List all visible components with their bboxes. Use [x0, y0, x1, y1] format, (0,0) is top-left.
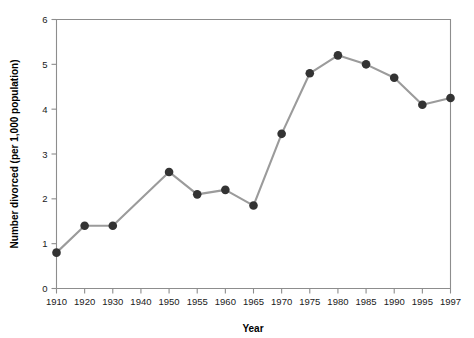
x-axis-tick-label: 1997	[440, 296, 461, 307]
x-axis-tick-label: 1970	[271, 296, 292, 307]
data-point-marker	[52, 248, 61, 257]
y-axis-ticks	[52, 20, 57, 289]
x-axis-tick-label: 1920	[74, 296, 95, 307]
data-point-marker	[390, 73, 399, 82]
x-axis-tick-label: 1990	[384, 296, 405, 307]
y-axis-tick-label: 5	[42, 59, 47, 70]
y-axis-tick-label: 4	[42, 104, 47, 115]
x-axis-tick-label: 1950	[159, 296, 180, 307]
y-axis-tick-label: 1	[42, 238, 47, 249]
data-point-marker	[108, 221, 117, 230]
x-axis-tick-labels: 1910192019301940195019551960196519701975…	[46, 296, 461, 307]
x-axis-tick-label: 1965	[243, 296, 264, 307]
data-point-marker	[446, 94, 455, 103]
divorce-rate-line-chart: 0123456 19101920193019401950195519601965…	[0, 0, 474, 338]
data-point-marker	[305, 69, 314, 78]
y-axis-tick-label: 6	[42, 14, 47, 25]
data-point-marker	[80, 221, 89, 230]
y-axis-label: Number divorced (per 1,000 population)	[9, 60, 20, 249]
x-axis-ticks	[57, 289, 451, 294]
x-axis-tick-label: 1930	[102, 296, 123, 307]
data-point-marker	[165, 168, 174, 177]
data-point-marker	[193, 190, 202, 199]
x-axis-tick-label: 1960	[215, 296, 236, 307]
data-point-marker	[418, 100, 427, 109]
y-axis-tick-label: 2	[42, 193, 47, 204]
x-axis-tick-label: 1985	[356, 296, 377, 307]
y-axis-tick-label: 3	[42, 149, 47, 160]
data-series-group	[52, 51, 455, 257]
x-axis-tick-label: 1955	[187, 296, 208, 307]
x-axis-tick-label: 1975	[299, 296, 320, 307]
x-axis-tick-label: 1995	[412, 296, 433, 307]
data-point-marker	[249, 201, 258, 210]
x-axis-tick-label: 1910	[46, 296, 67, 307]
series-markers	[52, 51, 455, 257]
x-axis-tick-label: 1940	[130, 296, 151, 307]
data-point-marker	[334, 51, 343, 60]
x-axis-tick-label: 1980	[327, 296, 348, 307]
y-axis-tick-labels: 0123456	[42, 14, 47, 294]
data-point-marker	[277, 130, 286, 139]
y-axis-tick-label: 0	[42, 283, 47, 294]
plot-frame	[57, 20, 451, 289]
data-point-marker	[221, 186, 230, 195]
chart-container: 0123456 19101920193019401950195519601965…	[0, 0, 474, 338]
axis-frame	[57, 20, 451, 289]
data-point-marker	[362, 60, 371, 69]
x-axis-label: Year	[242, 323, 263, 334]
